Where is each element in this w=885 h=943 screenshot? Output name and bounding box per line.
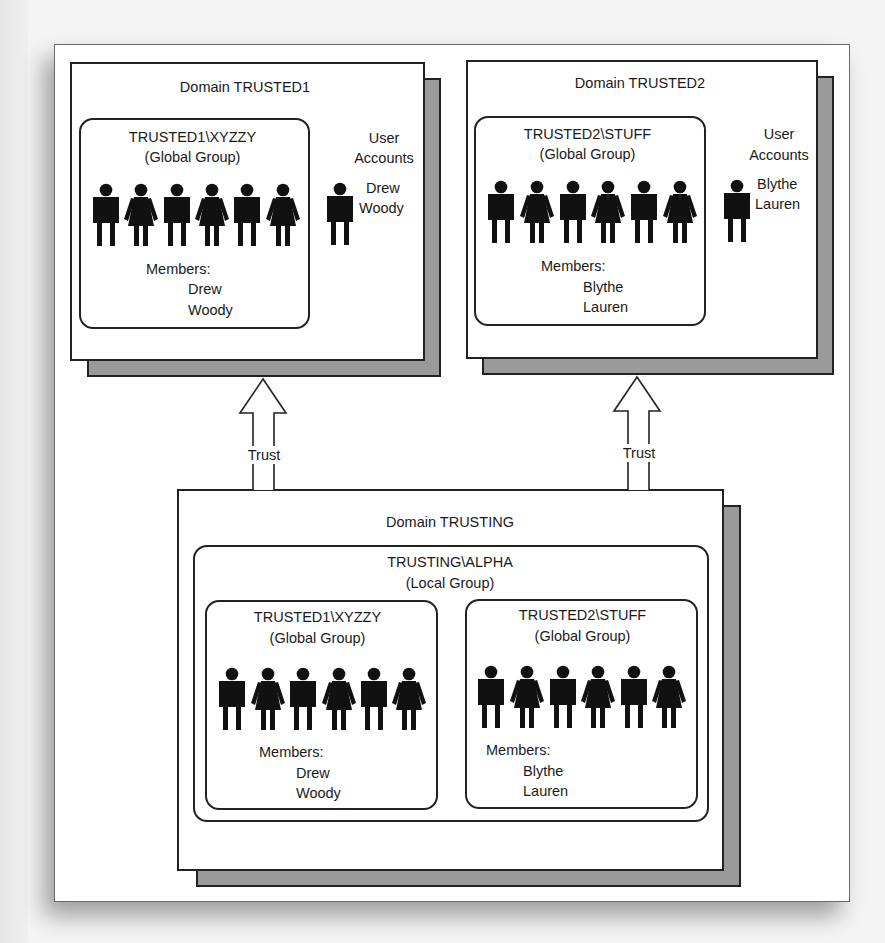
female-user-icon [652,666,686,728]
male-user-icon [550,666,576,728]
male-user-icon [560,181,586,243]
female-user-icon [520,181,554,243]
female-user-icon [581,666,615,728]
trust-arrow-icon [240,379,286,490]
female-user-icon [124,184,158,246]
trust-label-2: Trust [623,445,656,461]
male-user-icon [361,668,387,730]
male-user-icon [234,184,260,246]
nested-xyzzy-figures [219,668,426,730]
trusted1-user-account-icon [327,183,353,245]
trusted1-group-figures [93,184,300,246]
male-user-icon [93,184,119,246]
trusted2-group-figures [488,181,697,243]
trusted2-user-account-icon [724,180,750,242]
male-user-icon [164,184,190,246]
female-user-icon [663,181,697,243]
male-user-icon [631,181,657,243]
female-user-icon [266,184,300,246]
diagram-graphics: Trust Trust [0,0,885,943]
female-user-icon [392,668,426,730]
female-user-icon [322,668,356,730]
male-user-icon [488,181,514,243]
female-user-icon [510,666,544,728]
male-user-icon [621,666,647,728]
nested-stuff-figures [478,666,686,728]
female-user-icon [251,668,285,730]
female-user-icon [591,181,625,243]
female-user-icon [195,184,229,246]
male-user-icon [219,668,245,730]
male-user-icon [290,668,316,730]
male-user-icon [478,666,504,728]
trust-arrow-icon [614,377,660,490]
trust-label-1: Trust [248,447,281,463]
